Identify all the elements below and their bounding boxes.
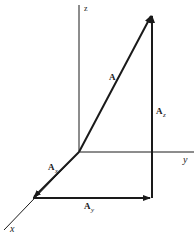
vector-a-x-label: A: [48, 162, 55, 172]
y-axis-label: y: [182, 154, 188, 165]
vector-a-y-label: A: [84, 201, 91, 211]
vector-a-z-label: A: [156, 106, 163, 116]
x-axis-label: x: [9, 223, 15, 234]
vector-a-label: A: [109, 72, 116, 82]
vector-a: [79, 16, 151, 152]
vector-diagram: z y x A A z A x A y: [0, 0, 194, 234]
vector-a-z-subscript: z: [162, 111, 166, 119]
z-axis-label: z: [84, 4, 88, 13]
vector-a-y-subscript: y: [90, 206, 95, 214]
